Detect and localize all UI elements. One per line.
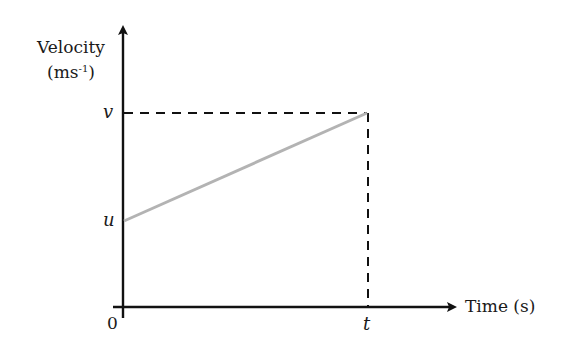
origin-label: 0	[107, 313, 118, 333]
x-tick-label-t: t	[363, 313, 370, 334]
y-tick-label-u: u	[103, 209, 115, 230]
y-axis-label-unit: (ms-1)	[26, 58, 116, 83]
y-axis-label-name: Velocity	[26, 36, 116, 58]
y-axis-label: Velocity (ms-1)	[26, 36, 116, 83]
x-axis-label: Time (s)	[465, 296, 535, 316]
y-tick-label-v: v	[103, 101, 113, 122]
velocity-line	[124, 113, 367, 221]
